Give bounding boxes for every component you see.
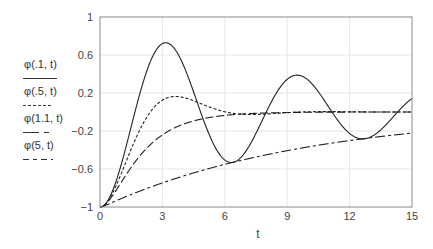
svg-text:6: 6: [222, 210, 228, 222]
x-axis-label: t: [256, 227, 260, 241]
legend-label: φ(.5, t): [24, 85, 57, 97]
legend-item: φ(1.1, t): [20, 112, 76, 139]
legend-line-solid: [23, 77, 63, 80]
x-axis-ticks: 03691215: [97, 210, 418, 222]
curves: [100, 43, 412, 207]
legend-label: φ(1.1, t): [24, 112, 63, 124]
legend-label: φ(5, t): [24, 139, 54, 151]
series-line: [100, 43, 412, 207]
legend-item: φ(5, t): [20, 139, 76, 166]
legend-line-dashdot: [23, 158, 63, 161]
svg-text:3: 3: [159, 210, 165, 222]
svg-text:1: 1: [87, 11, 93, 23]
svg-text:12: 12: [343, 210, 355, 222]
legend-label: φ(.1, t): [24, 58, 57, 70]
svg-text:9: 9: [284, 210, 290, 222]
svg-text:0.6: 0.6: [78, 49, 93, 61]
legend-item: φ(.1, t): [20, 58, 76, 85]
legend-line-dotted: [23, 104, 63, 107]
series-line: [100, 112, 412, 207]
legend-item: φ(.5, t): [20, 85, 76, 112]
svg-text:0.2: 0.2: [78, 87, 93, 99]
svg-text:15: 15: [406, 210, 418, 222]
svg-text:−1: −1: [80, 201, 93, 213]
legend-line-dashed: [23, 131, 63, 134]
svg-text:0: 0: [97, 210, 103, 222]
series-line: [100, 133, 412, 207]
legend: φ(.1, t) φ(.5, t) φ(1.1, t) φ(5, t): [20, 58, 76, 166]
